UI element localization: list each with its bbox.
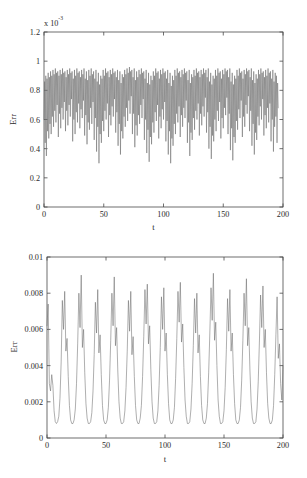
exponent-power-top: -3 [58,15,63,21]
y-tick-label: 0.4 [30,145,40,154]
x-tick-label: 200 [277,210,289,219]
x-tick-label: 50 [102,441,110,450]
x-axis-label-bottom: t [164,454,167,464]
y-tick-label: 0.6 [30,116,40,125]
y-tick-label: 0.8 [30,86,40,95]
y-tick-label: 0.006 [25,325,43,334]
x-tick-label: 0 [45,441,49,450]
y-tick-label: 0.01 [29,253,43,262]
x-tick-label: 50 [100,210,108,219]
y-tick-label: 1.2 [30,28,40,37]
y-tick-label: 0 [39,434,43,443]
top-plot-svg: x 10-3 00.20.40.60.811.2 050100150200 t … [0,0,307,240]
x-tick-label: 150 [217,210,229,219]
x-axis-label-top: t [152,222,155,232]
y-tick-label: 0.008 [25,289,43,298]
y-axis-label-top: Err [8,114,18,125]
y-axis-label-bottom: Err [9,341,19,352]
x-tick-label: 0 [42,210,46,219]
data-curve-bottom [47,273,283,423]
y-tick-label: 1 [36,57,40,66]
exponent-mantissa-top: x 10 [44,19,58,28]
figure-container: x 10-3 00.20.40.60.811.2 050100150200 t … [0,0,307,478]
x-tick-label: 150 [218,441,230,450]
chart-panel-bottom: 00.0020.0040.0060.0080.01 050100150200 t… [0,240,307,478]
y-axis-ticks-bottom: 00.0020.0040.0060.0080.01 [25,253,283,443]
y-axis-exponent-top: x 10-3 [44,15,63,28]
x-tick-label: 100 [157,210,169,219]
chart-panel-top: x 10-3 00.20.40.60.811.2 050100150200 t … [0,0,307,240]
x-tick-label: 100 [159,441,171,450]
bottom-plot-svg: 00.0020.0040.0060.0080.01 050100150200 t… [0,240,307,478]
y-tick-label: 0.004 [25,362,43,371]
data-curve-top [44,67,278,163]
y-tick-label: 0.002 [25,398,43,407]
y-tick-label: 0 [36,203,40,212]
x-tick-label: 200 [277,441,289,450]
y-tick-label: 0.2 [30,174,40,183]
